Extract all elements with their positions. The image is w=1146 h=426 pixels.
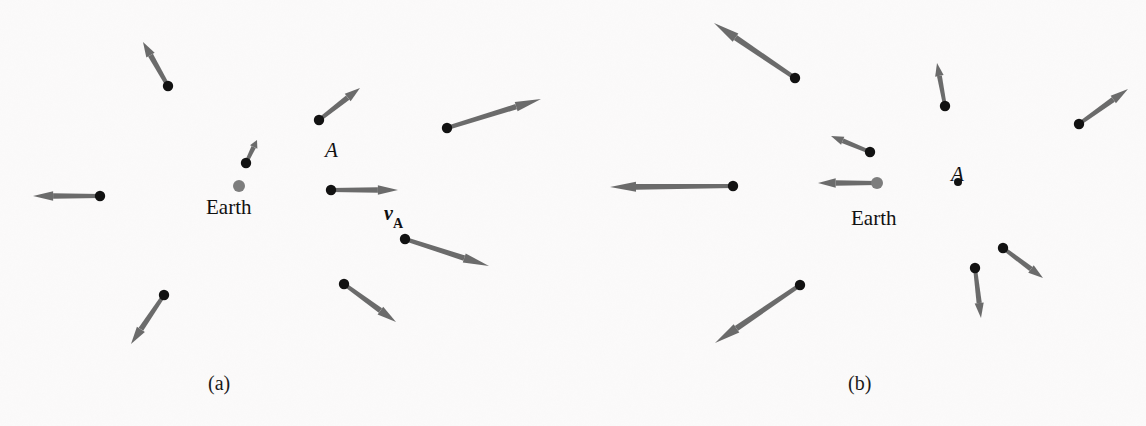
galaxy-upper-left-velocity-arrow [714, 23, 796, 80]
earth-velocity-arrow-head [818, 178, 836, 188]
galaxy-a-velocity-arrow-head [378, 185, 398, 195]
galaxy-bottom-left-velocity-arrow [131, 294, 166, 344]
panel-b: (b) EarthA [573, 0, 1146, 426]
galaxy-right-lower-velocity-arrow-head [463, 253, 489, 266]
velocity-a-label: vA [384, 203, 403, 228]
galaxy-top-right-dot [442, 123, 452, 133]
galaxy-left-velocity-arrow-head [33, 191, 53, 201]
galaxy-top-right-velocity-arrow [446, 99, 541, 130]
galaxy-left-velocity-arrow-shaft [53, 193, 100, 199]
galaxy-lower-center-dot [970, 263, 980, 273]
galaxy-bottom-left-velocity-arrow [715, 283, 801, 343]
galaxy-right-lower-velocity-arrow [1002, 246, 1043, 278]
galaxy-right-lower-velocity-arrow-shaft [404, 237, 465, 261]
panel-a-vectors [0, 0, 573, 426]
galaxy-upper-right-velocity-arrow [1078, 89, 1128, 126]
galaxy-bottom-left-dot [159, 290, 169, 300]
panel-a: (a) EarthAvA [0, 0, 573, 426]
hubble-expansion-figure: (a) EarthAvA (b) EarthA [0, 0, 1146, 426]
galaxy-left-dot [95, 191, 105, 201]
galaxy-a-label: A [325, 140, 338, 161]
galaxy-left-velocity-arrow-head [610, 182, 636, 192]
galaxy-bottom-center-dot [339, 279, 349, 289]
panel-a-caption: (a) [208, 372, 230, 395]
galaxy-top-right-velocity-arrow-head [515, 99, 541, 111]
galaxy-right-lower-velocity-arrow [404, 237, 489, 266]
galaxy-right-lower-dot [400, 234, 410, 244]
velocity-a-label-symbol: v [384, 202, 393, 224]
galaxy-left-dot [728, 181, 738, 191]
earth-velocity-arrow-shaft [836, 180, 877, 186]
earth-dot [233, 180, 245, 192]
galaxy-near-earth-velocity-arrow [831, 136, 871, 154]
galaxy-near-earth-dot [865, 147, 875, 157]
earth-label: Earth [851, 208, 896, 229]
galaxy-top-right-velocity-arrow-shaft [446, 104, 517, 130]
velocity-a-label-subscript: A [393, 216, 403, 231]
galaxy-upper-right-dot [1074, 119, 1084, 129]
galaxy-upper-left-velocity-arrow [143, 42, 170, 87]
galaxy-bottom-center-velocity-arrow-shaft [343, 282, 382, 312]
galaxy-bottom-center-velocity-arrow [343, 282, 396, 322]
galaxy-near-earth-dot [241, 158, 251, 168]
panel-b-caption: (b) [848, 372, 871, 395]
earth-label: Earth [206, 197, 251, 218]
galaxy-near-earth-velocity-arrow-head [831, 136, 844, 145]
galaxy-left-velocity-arrow-shaft [636, 184, 733, 190]
earth-velocity-arrow [818, 178, 877, 188]
galaxy-upper-mid-dot [940, 101, 950, 111]
galaxy-bottom-left-dot [795, 280, 805, 290]
galaxy-upper-left-velocity-arrow-shaft [734, 35, 796, 80]
galaxy-upper-mid-velocity-arrow [935, 63, 947, 106]
galaxy-lower-center-velocity-arrow [973, 268, 984, 318]
galaxy-right-lower-dot [998, 243, 1008, 253]
galaxy-a-label: A [951, 164, 964, 185]
galaxy-lower-center-velocity-arrow-head [975, 302, 984, 318]
galaxy-a-velocity-arrow-shaft [331, 187, 378, 193]
earth-dot [871, 177, 883, 189]
galaxy-left-velocity-arrow [610, 182, 733, 192]
galaxy-bottom-left-velocity-arrow-shaft [735, 283, 801, 330]
galaxy-a-dot [326, 185, 336, 195]
galaxy-upper-mid-velocity-arrow-head [935, 63, 943, 77]
galaxy-top-middle-dot [314, 115, 324, 125]
galaxy-upper-left-dot [790, 73, 800, 83]
galaxy-top-middle-velocity-arrow [318, 88, 360, 122]
galaxy-a-velocity-arrow [331, 185, 398, 195]
galaxy-upper-left-dot [163, 81, 173, 91]
galaxy-left-velocity-arrow [33, 191, 100, 201]
